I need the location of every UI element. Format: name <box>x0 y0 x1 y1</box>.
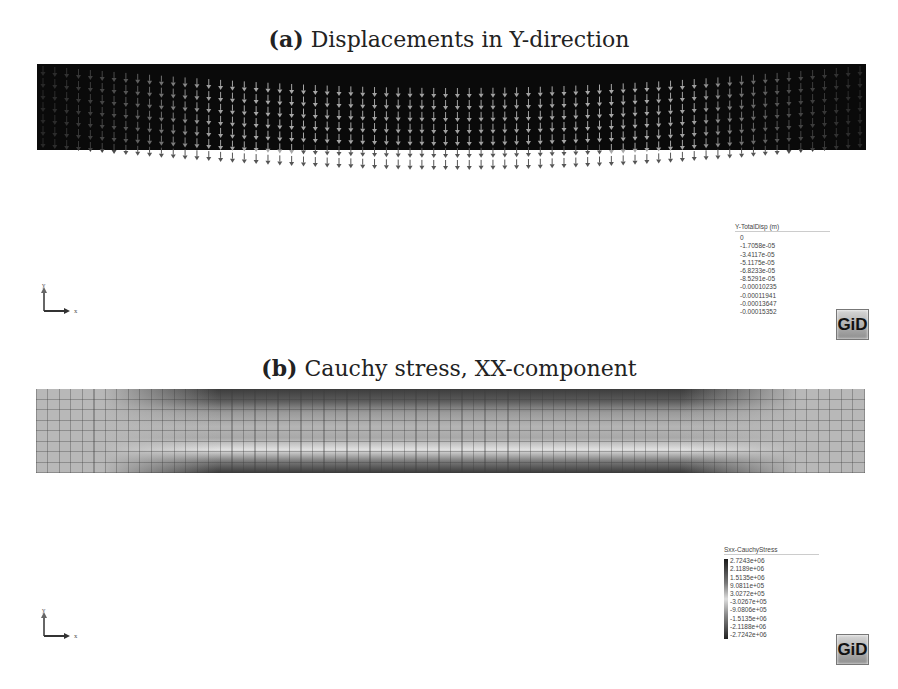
legend-value: 3.0272e+05 <box>730 590 819 598</box>
legend-value: -0.00010235 <box>740 283 830 291</box>
legend-value: -6.8233e-05 <box>740 267 830 275</box>
stress-contour-plot <box>36 389 865 473</box>
panel-a-label: (a) <box>269 26 304 52</box>
legend-value: -0.00013647 <box>740 300 830 308</box>
legend-value: -1.5135e+06 <box>730 615 819 623</box>
panel-a-caption: (a) Displacements in Y-direction <box>0 26 898 52</box>
colorbar <box>724 559 728 639</box>
displacement-vector-arrows <box>37 64 866 174</box>
axes-triad-icon: y x <box>38 283 83 315</box>
panel-b-title: Cauchy stress, XX-component <box>305 356 637 381</box>
legend-value: -5.1175e-05 <box>740 259 830 267</box>
svg-text:x: x <box>74 632 78 639</box>
panel-b-label: (b) <box>261 355 297 381</box>
legend-value: -0.00015352 <box>740 308 830 316</box>
legend-title: Y-TotalDisp (m) <box>735 223 830 232</box>
panel-a-title: Displacements in Y-direction <box>311 27 630 52</box>
legend-value: -0.00011941 <box>740 292 830 300</box>
legend-value: -2.1188e+06 <box>730 623 819 631</box>
axes-triad-icon: y x <box>38 608 83 640</box>
svg-text:x: x <box>74 307 78 314</box>
gid-logo: GiD <box>836 634 869 665</box>
stress-legend: Sxx-CauchyStress 2.7243e+062.1189e+061.5… <box>724 546 819 639</box>
legend-value: 9.0811e+05 <box>730 582 819 590</box>
legend-value: -3.4117e-05 <box>740 251 830 259</box>
legend-value: -8.5291e-05 <box>740 275 830 283</box>
legend-value: 2.7243e+06 <box>730 557 819 565</box>
panel-b-caption: (b) Cauchy stress, XX-component <box>0 355 898 381</box>
legend-value: 0 <box>740 234 830 242</box>
displacement-legend: Y-TotalDisp (m) 0-1.7058e-05-3.4117e-05-… <box>735 223 830 316</box>
gid-logo: GiD <box>836 309 869 340</box>
legend-value: 1.5135e+06 <box>730 574 819 582</box>
legend-title: Sxx-CauchyStress <box>724 546 819 555</box>
legend-value: -2.7242e+06 <box>730 631 819 639</box>
legend-value: -9.0806e+05 <box>730 606 819 614</box>
legend-value: 2.1189e+06 <box>730 565 819 573</box>
legend-value: -1.7058e-05 <box>740 242 830 250</box>
legend-value: -3.0267e+05 <box>730 598 819 606</box>
